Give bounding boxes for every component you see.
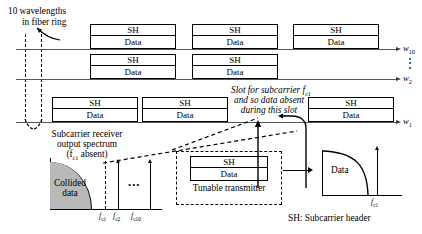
slot-payload-label: Data [91,66,175,78]
slot-payload-label: Data [53,109,137,121]
wavelength-arrow-w1-icon [396,120,401,124]
transmitter-tone-fc1-arrow-icon [375,146,379,150]
freq-tick-fc1: fc1 [99,211,106,222]
slot-boundary-guide-right [41,34,42,122]
slot-w10-1: SH Data [90,24,176,49]
slot-boundary-guide-left [25,34,26,122]
wavelength-note-pointer-icon [28,26,62,42]
slot-payload-label: Data [193,36,277,48]
slot-header-label: SH [53,98,137,109]
freq-tick-fc2: fc2 [113,211,120,222]
wavelength-line-w2 [16,79,398,80]
transmitter-output-connector [283,170,309,171]
slot-header-label: SH [309,98,393,109]
wavelength-label-w2: w2 [403,73,412,85]
slot-w1-1: SH Data [52,97,138,122]
tone-fc2 [118,163,119,209]
slot-payload-label: Data [91,36,175,48]
slot-w2-1: SH Data [90,54,176,79]
slot-header-label: SH [91,55,175,66]
transmitter-data-label: Data [331,165,349,176]
transmitter-tone-fc1 [377,150,378,195]
receiver-spectrum-x-axis [50,209,162,210]
tone-fc10 [150,163,151,209]
wavelength-label-w10: w10 [403,43,415,55]
slot-payload-label: Data [193,66,277,78]
figure-subcarrier-multiplexing-diagram: 10 wavelengths in fiber ring w10 SH Data… [0,0,422,234]
slot-w10-2: SH Data [192,24,278,49]
slot-header-label: SH [294,25,378,36]
freq-tick-fc10: fc10 [131,211,141,222]
tones-ellipsis: ••• [128,180,140,190]
wavelength-ellipsis: ⋮ [404,56,416,71]
transmitter-upward-arrow [240,118,270,190]
transmitter-output-arrow-icon [308,167,313,173]
slot-w2-2: SH Data [192,54,278,79]
wavelength-label-w1: w1 [403,116,412,128]
slot-header-label: SH [193,55,277,66]
legend-sh-definition: SH: Subcarrier header [288,213,371,223]
wavelength-arrow-w10-icon [396,47,401,51]
wavelength-count-note-line1: 10 wavelengths [8,6,66,17]
collided-data-label-line2: data [48,188,92,199]
collided-data-label-line1: Collided [48,178,92,189]
wavelength-arrow-w2-icon [396,77,401,81]
slot-header-label: SH [193,25,277,36]
slot-w10-3: SH Data [293,24,379,49]
slot-payload-label: Data [309,109,393,121]
slot-header-label: SH [143,98,227,109]
transmitter-freq-tick-fc1: fc1 [371,197,378,208]
wavelength-line-w10 [16,49,398,50]
slot-w1-3: SH Data [308,97,394,122]
slot-payload-label: Data [294,36,378,48]
tone-fc1-absent [105,161,106,209]
slot-header-label: SH [91,25,175,36]
